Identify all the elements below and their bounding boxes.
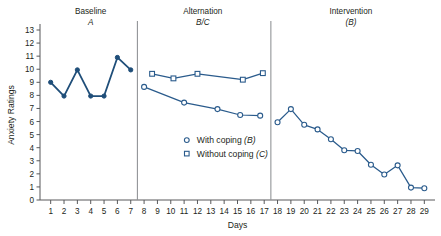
anxiety-ratings-chart: 0123456789101112131234567891011121314151… <box>0 0 441 236</box>
x-tick-label: 5 <box>102 207 107 216</box>
data-point-open-circle <box>288 107 293 112</box>
y-tick-label: 7 <box>29 104 34 113</box>
y-tick-label: 3 <box>29 157 34 166</box>
x-tick-label: 21 <box>313 207 323 216</box>
y-tick-label: 12 <box>25 39 35 48</box>
y-tick-label: 4 <box>29 144 34 153</box>
data-point-open-circle <box>382 172 387 177</box>
x-tick-label: 1 <box>48 207 53 216</box>
y-tick-label: 10 <box>25 65 35 74</box>
data-point-open-circle <box>275 120 280 125</box>
data-point-open-circle <box>328 137 333 142</box>
x-tick-label: 13 <box>206 207 216 216</box>
x-tick-label: 18 <box>273 207 283 216</box>
x-tick-label: 4 <box>88 207 93 216</box>
x-tick-label: 23 <box>340 207 350 216</box>
x-tick-label: 16 <box>246 207 256 216</box>
data-point-open-circle <box>315 127 320 132</box>
data-point-filled-circle <box>62 94 66 98</box>
phase-condition: (B) <box>345 18 356 27</box>
x-tick-label: 12 <box>193 207 203 216</box>
y-tick-label: 8 <box>29 91 34 100</box>
data-point-open-square <box>171 76 176 81</box>
x-tick-label: 19 <box>286 207 296 216</box>
x-tick-label: 27 <box>393 207 403 216</box>
x-tick-label: 6 <box>115 207 120 216</box>
data-point-open-square <box>260 71 265 76</box>
y-tick-label: 5 <box>29 131 34 140</box>
x-tick-label: 14 <box>220 207 230 216</box>
x-tick-label: 8 <box>142 207 147 216</box>
phase-title: Intervention <box>330 7 373 16</box>
data-point-open-circle <box>302 122 307 127</box>
y-tick-label: 9 <box>29 78 34 87</box>
x-tick-label: 29 <box>420 207 430 216</box>
x-tick-label: 24 <box>353 207 363 216</box>
x-tick-label: 20 <box>300 207 310 216</box>
x-axis-title: Days <box>228 220 248 230</box>
data-point-open-square <box>150 71 155 76</box>
data-point-open-circle <box>355 148 360 153</box>
data-point-open-circle <box>142 84 147 89</box>
phase-title: Baseline <box>75 7 107 16</box>
y-tick-label: 1 <box>29 183 34 192</box>
legend-marker-open-square <box>184 151 189 156</box>
series-line-with-coping-b <box>144 87 260 116</box>
data-point-filled-circle <box>75 68 79 72</box>
y-axis-title: Anxiety Ratings <box>6 85 16 145</box>
series-line-without-coping-c <box>152 73 263 80</box>
data-point-open-circle <box>182 100 187 105</box>
data-point-open-circle <box>215 107 220 112</box>
y-tick-label: 0 <box>29 196 34 205</box>
data-point-open-circle <box>422 186 427 191</box>
x-tick-label: 9 <box>155 207 160 216</box>
data-point-open-circle <box>408 185 413 190</box>
series-line-intervention <box>278 109 425 188</box>
y-tick-label: 6 <box>29 118 34 127</box>
data-point-open-square <box>240 77 245 82</box>
x-tick-label: 7 <box>128 207 133 216</box>
phase-condition: B/C <box>196 18 210 27</box>
x-tick-label: 10 <box>166 207 176 216</box>
data-point-filled-circle <box>89 94 93 98</box>
x-tick-label: 25 <box>366 207 376 216</box>
x-tick-label: 11 <box>180 207 189 216</box>
data-point-filled-circle <box>129 68 133 72</box>
data-point-open-circle <box>238 113 243 118</box>
x-tick-label: 22 <box>326 207 336 216</box>
phase-condition: A <box>87 18 94 27</box>
x-tick-label: 2 <box>62 207 67 216</box>
data-point-open-square <box>195 71 200 76</box>
data-point-filled-circle <box>49 80 53 84</box>
data-point-open-circle <box>258 113 263 118</box>
y-tick-label: 11 <box>26 52 35 61</box>
data-point-open-circle <box>342 148 347 153</box>
phase-title: Alternation <box>183 7 223 16</box>
data-point-open-circle <box>368 162 373 167</box>
x-tick-label: 26 <box>380 207 390 216</box>
x-tick-label: 17 <box>260 207 270 216</box>
x-tick-label: 28 <box>406 207 416 216</box>
data-point-open-circle <box>395 163 400 168</box>
legend-label: Without coping (C) <box>197 149 268 159</box>
data-point-filled-circle <box>115 55 119 59</box>
series-line-baseline <box>51 57 131 96</box>
legend-label: With coping (B) <box>197 135 256 145</box>
x-tick-label: 15 <box>233 207 243 216</box>
y-tick-label: 13 <box>25 26 35 35</box>
y-tick-label: 2 <box>29 170 34 179</box>
data-point-filled-circle <box>102 94 106 98</box>
x-tick-label: 3 <box>75 207 80 216</box>
legend-marker-open-circle <box>184 138 189 143</box>
chart-svg: 0123456789101112131234567891011121314151… <box>0 0 441 236</box>
